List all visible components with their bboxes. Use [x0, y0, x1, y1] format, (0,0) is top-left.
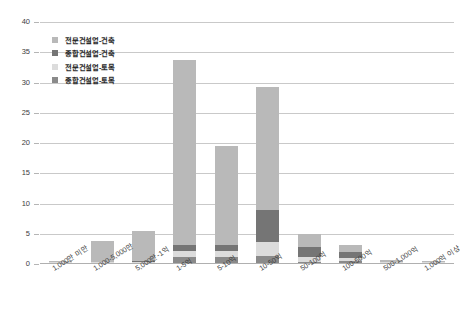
stacked-bar-chart: 0510152025303540 1,000만 미만1,000-5,000만5,… [0, 0, 466, 318]
bar-segment [173, 60, 196, 245]
y-axis-tick-mark [34, 52, 39, 53]
legend-label: 종합건설업-건축 [65, 48, 115, 58]
y-axis-tick-mark [34, 264, 39, 265]
bar-segment [298, 234, 321, 247]
legend-label: 종합건설업-토목 [65, 75, 115, 85]
bar-segment [256, 210, 279, 242]
y-axis-tick-label: 40 [22, 18, 30, 26]
legend-swatch-icon [52, 50, 58, 56]
legend-label: 전문건설업-건축 [65, 35, 115, 45]
legend-swatch-icon [52, 77, 58, 83]
x-axis: 1,000만 미만1,000-5,000만5,000만-1억1-5억5-10억1… [40, 266, 454, 318]
y-axis-tick-label: 35 [22, 49, 30, 57]
y-axis-tick-label: 10 [22, 200, 30, 208]
legend-item[interactable]: 전문건설업-토목 [52, 60, 115, 74]
y-axis-tick-mark [34, 113, 39, 114]
y-axis: 0510152025303540 [0, 22, 34, 264]
legend-item[interactable]: 종합건설업-건축 [52, 47, 115, 61]
bar-segment [215, 245, 238, 252]
legend-item[interactable]: 전문건설업-건축 [52, 33, 115, 47]
chart-legend: 전문건설업-건축종합건설업-건축전문건설업-토목종합건설업-토목 [52, 33, 115, 87]
bar-segment [256, 87, 279, 210]
y-axis-tick-label: 5 [26, 230, 30, 238]
y-axis-tick-label: 20 [22, 139, 30, 147]
bar-segment [173, 245, 196, 252]
legend-label: 전문건설업-토목 [65, 62, 115, 72]
bar-segment [339, 245, 362, 252]
y-axis-tick-mark [34, 173, 39, 174]
bar-segment [215, 146, 238, 245]
y-axis-tick-label: 0 [26, 260, 30, 268]
bar-group [256, 87, 279, 264]
y-axis-tick-mark [34, 204, 39, 205]
bar-group [215, 146, 238, 264]
y-axis-tick-mark [34, 83, 39, 84]
legend-swatch-icon [52, 64, 58, 70]
y-axis-tick-label: 15 [22, 170, 30, 178]
y-axis-tick-mark [34, 143, 39, 144]
y-axis-tick-label: 25 [22, 109, 30, 117]
y-axis-tick-mark [34, 22, 39, 23]
legend-item[interactable]: 종합건설업-토목 [52, 74, 115, 88]
legend-swatch-icon [52, 37, 58, 43]
bar-group [173, 60, 196, 264]
y-axis-tick-label: 30 [22, 79, 30, 87]
y-axis-tick-mark [34, 234, 39, 235]
